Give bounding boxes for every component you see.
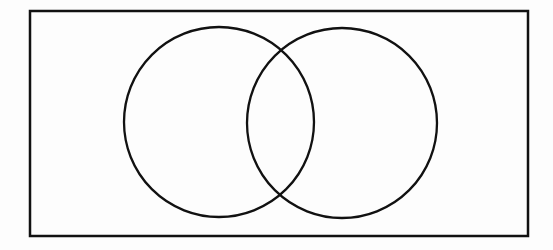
right-set-circle <box>247 28 437 218</box>
universe-rectangle <box>30 11 528 236</box>
venn-diagram <box>0 0 553 250</box>
left-set-circle <box>124 27 314 217</box>
